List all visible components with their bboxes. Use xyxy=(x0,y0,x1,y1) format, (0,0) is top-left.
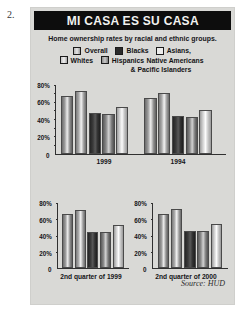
bar-overall-1999 xyxy=(61,96,73,154)
bottom-left-x-label: 2nd quarter of 1999 xyxy=(60,273,121,280)
top-chart-plot-area xyxy=(55,85,226,155)
newspaper-clipping: MI CASA ES SU CASA Home ownership rates … xyxy=(31,8,234,304)
subtitle: Home ownership rates by racial and ethni… xyxy=(42,34,223,43)
bl-y-tick-80: 80% xyxy=(39,200,52,207)
bar-asians-2nd-quarter-of-2000 xyxy=(211,224,223,268)
bar-hispanics-1999 xyxy=(102,114,114,154)
legend-continuation-line-1: Native Americans xyxy=(147,56,204,66)
legend-continuation-line-2: & Pacific Islanders xyxy=(130,65,191,75)
bl-y-tick-40: 40% xyxy=(39,233,52,240)
figure-number: 2. xyxy=(7,9,15,20)
bottom-left-chart: 80% 60% 40% 20% 0 2nd quarter of 1999 xyxy=(33,198,133,278)
bar-overall-2nd-quarter-of-2000 xyxy=(158,214,170,268)
bar-whites-2nd-quarter-of-1999 xyxy=(75,210,86,269)
bar-blacks-1994 xyxy=(172,116,184,153)
bottom-left-y-axis: 80% 60% 40% 20% 0 xyxy=(33,198,55,278)
overall-swatch-icon xyxy=(73,47,81,55)
bottom-right-chart: 80% 60% 40% 20% 0 2nd quarter of 2000 xyxy=(128,198,232,278)
legend-row-3: & Pacific Islanders xyxy=(39,65,226,75)
legend-label-hispanics: Hispanics xyxy=(112,56,144,66)
legend-item-hispanics: Hispanics xyxy=(101,56,145,66)
asians-swatch-icon xyxy=(156,47,164,55)
br-y-tick-80: 80% xyxy=(134,200,147,207)
page-title: MI CASA ES SU CASA xyxy=(66,14,198,28)
bar-hispanics-2nd-quarter-of-2000 xyxy=(197,231,209,268)
bottom-right-plot-area xyxy=(152,203,228,269)
bar-overall-1994 xyxy=(144,98,156,153)
bar-blacks-2nd-quarter-of-1999 xyxy=(87,232,98,268)
bar-asians-2nd-quarter-of-1999 xyxy=(113,225,124,268)
legend-label-whites: Whites xyxy=(71,56,93,66)
bar-blacks-1999 xyxy=(89,113,101,154)
br-y-tick-0: 0 xyxy=(143,266,146,273)
bar-whites-1994 xyxy=(158,93,170,153)
y-tick-0: 0 xyxy=(46,151,49,158)
legend-item-overall: Overall xyxy=(73,46,108,56)
top-chart-x-label-1994: 1994 xyxy=(171,158,186,165)
bl-y-tick-20: 20% xyxy=(39,249,52,256)
bottom-left-plot-area xyxy=(57,203,129,269)
legend-continuation: Native Americans xyxy=(145,56,205,66)
y-tick-60: 60% xyxy=(37,99,50,106)
bar-hispanics-2nd-quarter-of-1999 xyxy=(100,232,111,268)
bl-y-tick-0: 0 xyxy=(48,266,51,273)
bar-asians-1994 xyxy=(199,110,211,154)
top-chart-x-label-1999: 1999 xyxy=(97,158,112,165)
bar-asians-1999 xyxy=(116,107,128,154)
br-y-tick-60: 60% xyxy=(134,216,147,223)
bar-hispanics-1994 xyxy=(186,117,198,153)
legend-item-whites: Whites xyxy=(60,56,94,66)
headline-bar: MI CASA ES SU CASA xyxy=(34,11,231,30)
legend-label-overall: Overall xyxy=(84,46,107,56)
legend-label-asians: Asians, xyxy=(167,46,191,56)
br-y-tick-20: 20% xyxy=(134,249,147,256)
legend-item-asians: Asians, xyxy=(156,46,192,56)
y-tick-80: 80% xyxy=(37,81,50,88)
legend-label-blacks: Blacks xyxy=(126,46,148,56)
top-chart-y-axis: 80% 60% 40% 20% 0 xyxy=(31,79,53,163)
bar-blacks-2nd-quarter-of-2000 xyxy=(184,231,196,268)
br-y-tick-40: 40% xyxy=(134,233,147,240)
blacks-swatch-icon xyxy=(115,47,123,55)
bar-overall-2nd-quarter-of-1999 xyxy=(62,214,73,268)
legend-item-blacks: Blacks xyxy=(115,46,149,56)
bar-whites-1999 xyxy=(75,91,87,154)
source-note: Source: HUD xyxy=(181,279,225,288)
top-chart: 80% 60% 40% 20% 0 1999 1994 xyxy=(31,79,234,163)
hispanics-swatch-icon xyxy=(101,56,109,64)
whites-swatch-icon xyxy=(60,56,68,64)
y-tick-20: 20% xyxy=(37,134,50,141)
legend-row-1: Overall Blacks Asians, xyxy=(39,46,226,56)
bar-whites-2nd-quarter-of-2000 xyxy=(171,209,183,268)
bl-y-tick-60: 60% xyxy=(39,216,52,223)
y-tick-40: 40% xyxy=(37,116,50,123)
chart-legend: Overall Blacks Asians, Whites Hispanics … xyxy=(31,46,234,75)
legend-row-2: Whites Hispanics Native Americans xyxy=(39,56,226,66)
bottom-right-y-axis: 80% 60% 40% 20% 0 xyxy=(128,198,150,278)
